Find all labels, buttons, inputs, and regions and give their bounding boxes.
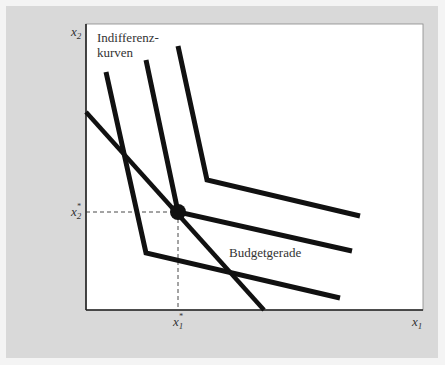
budget-label: Budgetgerade (229, 245, 301, 260)
x2-star-label: x*2 (70, 202, 82, 221)
y-axis-label: x2 (70, 24, 82, 41)
x-axis-label: x1 (411, 314, 422, 331)
indifference-label-2: kurven (97, 45, 134, 60)
indifference-label-1: Indifferenz- (97, 30, 159, 45)
optimum-point (170, 204, 186, 220)
diagram-canvas: Indifferenz- kurven Budgetgerade x2 x1 x… (0, 0, 445, 365)
x1-star-label: x*1 (172, 312, 183, 331)
